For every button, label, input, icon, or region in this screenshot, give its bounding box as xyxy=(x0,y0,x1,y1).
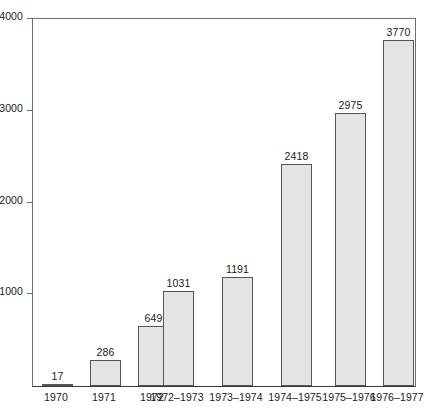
bar-value-label: 17 xyxy=(52,370,64,382)
bar-value-label: 649 xyxy=(145,312,163,324)
bar-1975-1976: 2975 xyxy=(335,113,366,386)
bar-value-label: 2975 xyxy=(339,99,363,111)
bar-1973-1974: 1191 xyxy=(222,277,253,386)
bar-chart: 4000 3000 2000 1000 17 286 649 1031 1191… xyxy=(0,0,426,420)
bar-1972-1973: 1031 xyxy=(163,291,194,386)
bar-1970: 17 xyxy=(42,384,73,386)
y-axis-tick-label: 3000 xyxy=(0,102,23,114)
bar-value-label: 1191 xyxy=(226,263,249,275)
bar-value-label: 2418 xyxy=(285,150,309,162)
y-axis-tick-label: 2000 xyxy=(0,194,23,206)
bar-value-label: 286 xyxy=(97,346,115,358)
x-axis-label-1976-1977: 1976–1977 xyxy=(368,391,426,404)
x-axis-label-1974-1975: 1974–1975 xyxy=(266,391,324,404)
bar-1976-1977: 3770 xyxy=(383,40,414,386)
y-axis-tick-label: 1000 xyxy=(0,285,23,297)
x-axis-label-1973-1974: 1973–1974 xyxy=(207,391,265,404)
plot-area: 17 286 649 1031 1191 2418 2975 3770 xyxy=(32,18,416,387)
x-axis-label-1972-1973: 1972–1973 xyxy=(148,391,206,404)
y-axis-tick-label: 4000 xyxy=(0,10,23,22)
bar-1974-1975: 2418 xyxy=(281,164,312,386)
bar-1971: 286 xyxy=(90,360,121,386)
bar-value-label: 3770 xyxy=(387,26,411,38)
bar-value-label: 1031 xyxy=(167,277,191,289)
